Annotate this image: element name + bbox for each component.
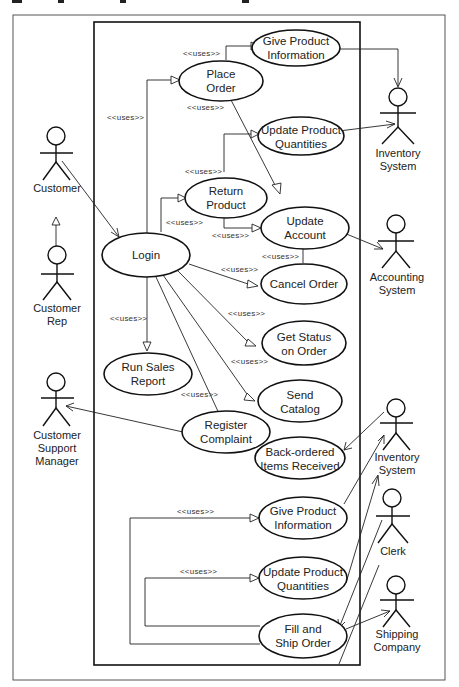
use-case-return-product[interactable]: Return Product	[185, 178, 267, 218]
svg-text:Update Product: Update Product	[261, 124, 342, 136]
svg-text:Place: Place	[207, 68, 236, 80]
svg-text:<<uses>>: <<uses>>	[181, 390, 218, 399]
actor-customer-support-manager[interactable]	[41, 373, 74, 426]
svg-text:on Order: on Order	[281, 345, 327, 357]
use-case-back-ordered-items-received[interactable]: Back-ordered Items Received	[255, 437, 345, 479]
use-case-diagram: <<uses>> <<uses>> <<uses>> <<uses>> <<us…	[0, 0, 459, 687]
actor-label: Inventory	[374, 451, 420, 463]
svg-text:<<uses>>: <<uses>>	[166, 218, 203, 227]
svg-text:<<uses>>: <<uses>>	[185, 167, 222, 176]
svg-text:Get Status: Get Status	[277, 331, 332, 343]
actor-label: System	[379, 464, 416, 476]
svg-text:<<uses>>: <<uses>>	[107, 113, 144, 122]
use-case-place-order[interactable]: Place Order	[179, 61, 263, 101]
svg-text:Login: Login	[132, 249, 160, 261]
svg-text:Back-ordered: Back-ordered	[265, 446, 334, 458]
actor-clerk[interactable]	[376, 489, 410, 543]
svg-text:Catalog: Catalog	[280, 403, 320, 415]
svg-text:Information: Information	[267, 49, 325, 61]
svg-text:Return: Return	[209, 185, 244, 197]
svg-text:<<uses>>: <<uses>>	[180, 567, 217, 576]
svg-text:Update Product: Update Product	[263, 566, 344, 578]
svg-text:Give Product: Give Product	[263, 35, 330, 47]
use-case-login[interactable]: Login	[102, 233, 190, 277]
actor-label: Inventory	[375, 147, 421, 159]
actor-label: Clerk	[380, 545, 406, 557]
actor-label: Company	[373, 641, 421, 653]
svg-text:Information: Information	[274, 519, 332, 531]
svg-text:<<uses>>: <<uses>>	[212, 231, 249, 240]
actor-label: Support	[38, 442, 77, 454]
svg-text:<<uses>>: <<uses>>	[262, 252, 299, 261]
actor-label: Customer	[33, 429, 81, 441]
svg-text:Fill and: Fill and	[284, 623, 321, 635]
svg-text:Register: Register	[205, 419, 248, 431]
actor-label: Rep	[47, 315, 67, 327]
svg-text:<<uses>>: <<uses>>	[228, 309, 265, 318]
svg-text:Give Product: Give Product	[270, 505, 337, 517]
actor-inventory-system-top[interactable]	[380, 88, 416, 144]
svg-text:<<uses>>: <<uses>>	[183, 49, 220, 58]
actor-customer[interactable]	[40, 127, 73, 180]
svg-text:Report: Report	[131, 375, 166, 387]
svg-text:Quantities: Quantities	[277, 580, 329, 592]
svg-text:Update: Update	[286, 215, 323, 227]
use-case-give-product-information-top[interactable]: Give Product Information	[252, 30, 340, 66]
actor-shipping-company[interactable]	[380, 576, 414, 627]
use-case-fill-and-ship-order[interactable]: Fill and Ship Order	[259, 614, 347, 658]
svg-text:Ship Order: Ship Order	[275, 637, 331, 649]
use-case-send-catalog[interactable]: Send Catalog	[258, 380, 342, 422]
svg-text:Complaint: Complaint	[200, 433, 253, 445]
svg-text:Cancel Order: Cancel Order	[270, 278, 339, 290]
actor-label: Manager	[35, 455, 79, 467]
figure-title-fragment	[12, 0, 249, 3]
actor-label: Accounting	[370, 271, 424, 283]
actor-label: Customer	[33, 182, 81, 194]
use-case-register-complaint[interactable]: Register Complaint	[182, 411, 270, 453]
svg-text:Account: Account	[284, 229, 326, 241]
actor-label: System	[379, 284, 416, 296]
svg-text:Product: Product	[206, 199, 246, 211]
svg-text:Quantities: Quantities	[275, 138, 327, 150]
svg-text:<<uses>>: <<uses>>	[110, 314, 147, 323]
actor-label: Shipping	[376, 628, 419, 640]
use-case-give-product-information-bottom[interactable]: Give Product Information	[259, 497, 347, 539]
connections	[56, 46, 402, 664]
actor-accounting-system[interactable]	[378, 215, 414, 268]
actor-label: Customer	[33, 302, 81, 314]
use-case-run-sales-report[interactable]: Run Sales Report	[104, 353, 192, 395]
actor-customer-rep[interactable]	[41, 246, 74, 300]
use-case-cancel-order[interactable]: Cancel Order	[261, 264, 347, 304]
use-case-get-status-on-order[interactable]: Get Status on Order	[262, 321, 346, 365]
use-case-update-account[interactable]: Update Account	[261, 207, 349, 249]
svg-text:Send: Send	[287, 389, 314, 401]
svg-text:Order: Order	[206, 82, 236, 94]
use-case-update-product-quantities-top[interactable]: Update Product Quantities	[258, 117, 344, 155]
actor-inventory-system-bottom[interactable]	[380, 399, 413, 450]
svg-text:<<uses>>: <<uses>>	[231, 357, 268, 366]
use-case-update-product-quantities-bottom[interactable]: Update Product Quantities	[259, 557, 347, 599]
svg-text:Items Received: Items Received	[260, 460, 339, 472]
figure-frame	[13, 15, 445, 680]
actor-label: System	[380, 160, 417, 172]
svg-text:Run Sales: Run Sales	[121, 361, 174, 373]
svg-text:<<uses>>: <<uses>>	[187, 103, 224, 112]
svg-text:<<uses>>: <<uses>>	[221, 265, 258, 274]
svg-text:<<uses>>: <<uses>>	[177, 507, 214, 516]
